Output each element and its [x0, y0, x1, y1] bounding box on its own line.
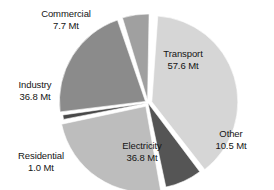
slice-label-other-value: 10.5 Mt	[200, 140, 262, 152]
pie-slice-group	[59, 14, 237, 190]
slice-label-other: Other 10.5 Mt	[200, 128, 262, 151]
slice-label-electricity: Electricity 36.8 Mt	[106, 140, 178, 163]
slice-label-transport-name: Transport	[148, 48, 218, 60]
slice-label-industry-name: Industry	[2, 79, 68, 91]
slice-label-other-name: Other	[200, 128, 262, 140]
pie-chart: Commercial 7.7 Mt Industry 36.8 Mt Resid…	[0, 0, 274, 190]
slice-label-residential-name: Residential	[4, 150, 78, 162]
slice-label-commercial-value: 7.7 Mt	[28, 20, 104, 32]
slice-label-electricity-value: 36.8 Mt	[106, 152, 178, 164]
slice-label-industry: Industry 36.8 Mt	[2, 79, 68, 102]
slice-label-electricity-name: Electricity	[106, 140, 178, 152]
slice-label-industry-value: 36.8 Mt	[2, 91, 68, 103]
slice-label-residential-value: 1.0 Mt	[4, 162, 78, 174]
slice-label-commercial: Commercial 7.7 Mt	[28, 8, 104, 31]
slice-label-residential: Residential 1.0 Mt	[4, 150, 78, 173]
slice-label-transport-value: 57.6 Mt	[148, 60, 218, 72]
slice-label-transport: Transport 57.6 Mt	[148, 48, 218, 71]
slice-label-commercial-name: Commercial	[28, 8, 104, 20]
